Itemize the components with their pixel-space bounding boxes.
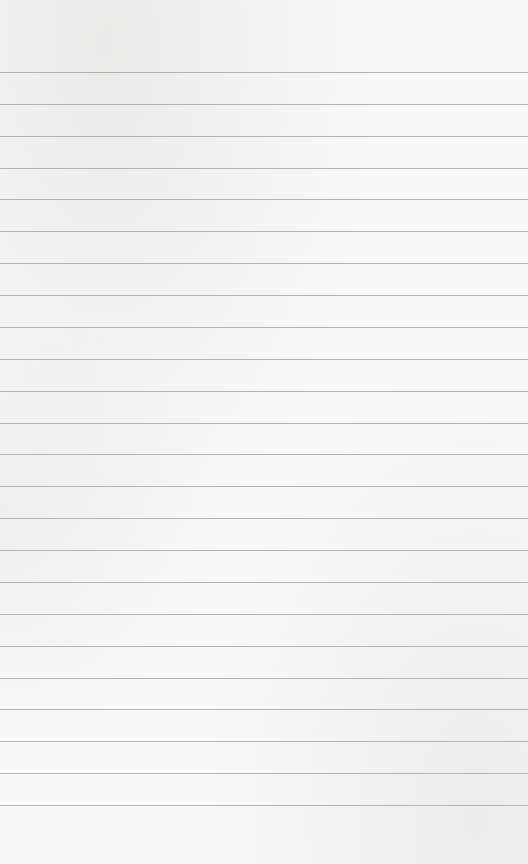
ruled-line: [0, 614, 528, 615]
ruled-line: [0, 454, 528, 455]
lined-paper-sheet: [0, 0, 528, 864]
ruled-line: [0, 550, 528, 551]
ruled-line: [0, 582, 528, 583]
ruled-line: [0, 391, 528, 392]
ruled-line: [0, 518, 528, 519]
ruled-line: [0, 136, 528, 137]
ruled-line: [0, 295, 528, 296]
ruled-line: [0, 168, 528, 169]
ruled-line: [0, 741, 528, 742]
ruled-line: [0, 231, 528, 232]
ruled-line: [0, 263, 528, 264]
ruled-line: [0, 486, 528, 487]
ruled-line: [0, 104, 528, 105]
ruled-line: [0, 359, 528, 360]
ruled-line: [0, 773, 528, 774]
ruled-line: [0, 678, 528, 679]
ruled-line: [0, 805, 528, 806]
ruled-line: [0, 72, 528, 73]
ruled-line: [0, 646, 528, 647]
ruled-line: [0, 423, 528, 424]
ruled-line: [0, 327, 528, 328]
ruled-line: [0, 709, 528, 710]
ruled-line: [0, 199, 528, 200]
